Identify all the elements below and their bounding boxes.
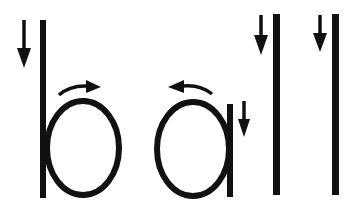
l-stem (332, 14, 339, 195)
counter-clockwise-arrow-icon (168, 80, 212, 94)
letter-l-2 (313, 14, 339, 195)
clockwise-arrow-icon (59, 80, 101, 95)
stroke-order-diagram (0, 0, 358, 220)
letter-b (17, 20, 119, 198)
down-arrow-icon (254, 15, 268, 55)
l-stem (273, 14, 280, 195)
down-arrow-icon (313, 15, 327, 52)
down-arrow-icon (238, 101, 250, 137)
down-arrow-icon (17, 20, 31, 68)
letter-l-1 (254, 14, 280, 195)
b-bowl (47, 101, 119, 195)
a-stem (227, 104, 233, 197)
b-stem (40, 20, 46, 198)
a-bowl (157, 102, 229, 196)
letter-a (157, 80, 250, 197)
